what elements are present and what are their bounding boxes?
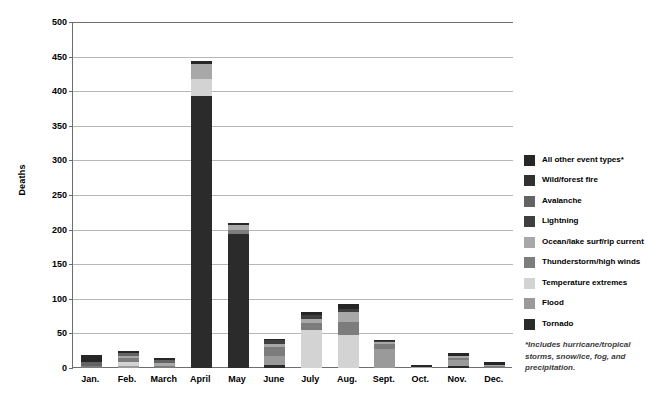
legend-item[interactable]: Ocean/lake surf/rip current	[524, 232, 664, 253]
y-tick-label: 200	[52, 225, 67, 235]
bar-segment	[228, 223, 249, 225]
bar-segment	[118, 356, 139, 359]
bar-segment	[448, 360, 469, 366]
legend-item[interactable]: Thunderstorm/high winds	[524, 253, 664, 274]
legend-swatch-icon	[524, 298, 535, 309]
bar-segment	[264, 365, 285, 368]
y-tick-mark	[69, 368, 73, 369]
bar-column	[81, 355, 102, 368]
bar-segment	[81, 366, 102, 368]
bar-segment	[154, 360, 175, 363]
legend-swatch-icon	[524, 257, 535, 268]
legend-item-label: Avalanche	[542, 197, 582, 206]
bar-segment	[301, 330, 322, 368]
bar-segment	[338, 312, 359, 322]
y-tick-label: 0	[62, 363, 67, 373]
bar-segment	[448, 366, 469, 368]
bar-segment	[228, 230, 249, 234]
bar-segment	[484, 366, 505, 368]
y-tick-label: 150	[52, 259, 67, 269]
legend-item[interactable]: Lightning	[524, 212, 664, 233]
bar-segment	[411, 365, 432, 367]
legend-item-label: Temperature extremes	[542, 279, 627, 288]
deaths-by-month-stacked-bar-chart: Deaths 050100150200250300350400450500 Ja…	[0, 0, 665, 395]
bar-segment	[191, 96, 212, 368]
legend: All other event types*Wild/forest fireAv…	[524, 150, 664, 335]
y-tick-label: 500	[52, 17, 67, 27]
bar-segment	[301, 312, 322, 315]
legend-item[interactable]: Tornado	[524, 314, 664, 335]
bar-segment	[264, 356, 285, 364]
legend-item[interactable]: Temperature extremes	[524, 273, 664, 294]
legend-item[interactable]: Avalanche	[524, 191, 664, 212]
footnote: *Includes hurricane/tropical storms, sno…	[525, 339, 660, 374]
legend-item-label: Thunderstorm/high winds	[542, 258, 640, 267]
bar-column	[154, 358, 175, 368]
bar-segment	[484, 365, 505, 366]
bar-column	[338, 304, 359, 368]
bar-segment	[301, 319, 322, 323]
bar-column	[301, 312, 322, 368]
legend-swatch-icon	[524, 319, 535, 330]
bar-segment	[338, 304, 359, 309]
bar-segment	[301, 315, 322, 319]
legend-item-label: Ocean/lake surf/rip current	[542, 238, 644, 247]
bar-segment	[374, 344, 395, 348]
y-tick-label: 450	[52, 52, 67, 62]
y-tick-label: 400	[52, 86, 67, 96]
bar-column	[484, 362, 505, 368]
y-tick-label: 250	[52, 190, 67, 200]
y-tick-label: 50	[57, 328, 67, 338]
y-tick-label: 300	[52, 155, 67, 165]
legend-item-label: Lightning	[542, 217, 578, 226]
legend-swatch-icon	[524, 155, 535, 166]
bar-segment	[228, 234, 249, 368]
bar-segment	[448, 356, 469, 357]
y-tick-label: 350	[52, 121, 67, 131]
bar-segment	[81, 355, 102, 362]
bar-segment	[374, 340, 395, 341]
legend-swatch-icon	[524, 196, 535, 207]
bar-segment	[338, 309, 359, 312]
bar-segment	[154, 363, 175, 366]
y-tick-label: 100	[52, 294, 67, 304]
legend-item-label: Tornado	[542, 320, 573, 329]
legend-item-label: All other event types*	[542, 156, 624, 165]
bar-segment	[118, 358, 139, 362]
legend-item[interactable]: Wild/forest fire	[524, 171, 664, 192]
bar-segment	[154, 358, 175, 360]
x-tick-label: Dec.	[464, 374, 524, 384]
legend-item-label: Flood	[542, 299, 564, 308]
bars-layer	[73, 22, 513, 368]
plot-area: 050100150200250300350400450500	[72, 22, 512, 368]
bar-segment	[448, 353, 469, 356]
bar-segment	[118, 366, 139, 368]
bar-column	[448, 353, 469, 368]
legend-item-label: Wild/forest fire	[542, 176, 598, 185]
legend-item[interactable]: Flood	[524, 294, 664, 315]
bar-column	[191, 61, 212, 368]
bar-segment	[264, 340, 285, 343]
bar-segment	[191, 61, 212, 64]
bar-segment	[484, 362, 505, 364]
bar-segment	[118, 351, 139, 353]
legend-item[interactable]: All other event types*	[524, 150, 664, 171]
bar-segment	[264, 344, 285, 347]
legend-swatch-icon	[524, 175, 535, 186]
bar-segment	[448, 358, 469, 361]
bar-segment	[374, 341, 395, 342]
bar-column	[374, 340, 395, 368]
legend-swatch-icon	[524, 278, 535, 289]
bar-segment	[154, 366, 175, 368]
bar-segment	[118, 362, 139, 365]
bar-segment	[228, 225, 249, 230]
bar-segment	[301, 323, 322, 330]
bar-segment	[191, 64, 212, 79]
bar-segment	[81, 362, 102, 366]
bar-column	[411, 365, 432, 368]
bar-segment	[191, 79, 212, 96]
bar-column	[264, 339, 285, 368]
bar-segment	[374, 342, 395, 345]
bar-segment	[118, 353, 139, 356]
bar-segment	[338, 322, 359, 336]
